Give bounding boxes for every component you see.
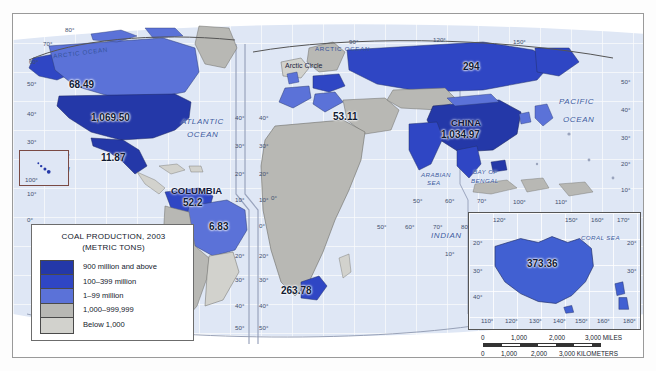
mexico-value: 11.87 xyxy=(101,153,125,163)
bay-of-bengal-label-line2: BENGAL xyxy=(471,178,499,184)
legend-label-column: 900 million and above 100–399 million 1–… xyxy=(83,260,157,334)
scale-km-3000: 3,000 KILOMETERS xyxy=(559,350,618,357)
indian-ocean-label-line1: INDIAN xyxy=(431,232,462,240)
indian-lon-110: 110° xyxy=(555,198,567,205)
brazil-value: 6.83 xyxy=(209,222,228,232)
gore2-tick-0: 0° xyxy=(259,222,265,229)
bay-of-bengal-label-line1: BAY OF xyxy=(473,169,498,175)
lon-tick-70: 70° xyxy=(477,197,486,204)
hawaii-inset-lon-label: 100° xyxy=(25,176,38,183)
africa2-tick-30: 30° xyxy=(259,276,268,283)
legend-label-1-99: 1–99 million xyxy=(83,288,157,302)
pacific-ocean-east-label-line2: OCEAN xyxy=(563,116,594,124)
legend-swatch-900-plus xyxy=(41,261,73,275)
right-lat-20: 20° xyxy=(621,160,630,167)
indian-lon-70: 70° xyxy=(433,223,442,230)
united-states-value: 1,069.50 xyxy=(91,113,130,123)
right-lat-30: 30° xyxy=(621,134,630,141)
scale-km-2000: 2,000 xyxy=(531,350,547,357)
aus-lat-right-20: 20° xyxy=(627,239,636,246)
arabian-sea-label-line2: SEA xyxy=(427,180,441,186)
arabian-sea-label-line1: ARABIAN xyxy=(421,172,451,178)
pacific-ocean-east-label-line1: PACIFIC xyxy=(559,98,594,106)
map-frame: 80° 70° 60° 50° 40° 30° 20° 10° 0° 40° 3… xyxy=(12,13,644,358)
aus-lon-bot-130: 130° xyxy=(529,317,542,324)
europe-value: 53.11 xyxy=(333,112,357,122)
atlantic-tick-30: 30° xyxy=(235,142,244,149)
aus-lon-top-120: 120° xyxy=(493,216,506,223)
aus-lat-right-30: 30° xyxy=(627,267,636,274)
arctic-ocean-east-label: ARCTIC OCEAN xyxy=(315,46,370,52)
lon-tick-60: 60° xyxy=(445,197,454,204)
australia-landmass xyxy=(469,213,640,329)
indian-lon-50: 50° xyxy=(377,223,386,230)
lat-tick-70: 70° xyxy=(43,40,52,47)
scale-miles-2000: 2,000 xyxy=(549,334,565,341)
legend-swatch-column xyxy=(40,260,74,334)
lon-tick-0-africa: 0° xyxy=(271,194,277,201)
atlantic-tick-40: 40° xyxy=(235,114,244,121)
aus-lon-bot-180: 180° xyxy=(623,317,636,324)
aus-lon-bot-160: 160° xyxy=(597,317,610,324)
africa2-tick-20: 20° xyxy=(259,252,268,259)
scale-km-1000: 1,000 xyxy=(501,350,517,357)
coral-sea-label: CORAL SEA xyxy=(581,235,620,241)
legend-swatch-1-99 xyxy=(41,289,73,303)
scale-miles-1000: 1,000 xyxy=(511,334,527,341)
legend-swatch-1k-999k xyxy=(41,304,73,318)
australia-value: 373.36 xyxy=(527,259,558,269)
gore2-tick-20: 20° xyxy=(259,170,268,177)
aus-lon-bot-110: 110° xyxy=(481,317,493,324)
atlantic-tick-20: 20° xyxy=(235,170,244,177)
china-country-label: CHINA xyxy=(451,118,481,128)
canada-value: 68.49 xyxy=(69,80,94,90)
scale-miles-3000: 3,000 MILES xyxy=(585,334,622,341)
australia-inset: 373.36 CORAL SEA 120° 150° 160° 170° 20°… xyxy=(468,212,641,330)
lat-tick-0: 0° xyxy=(27,216,33,223)
lat-tick-40: 40° xyxy=(27,110,36,117)
map-page: 80° 70° 60° 50° 40° 30° 20° 10° 0° 40° 3… xyxy=(0,0,656,371)
africa-tick-50: 50° xyxy=(235,324,244,331)
south-africa-value: 263.78 xyxy=(281,286,312,296)
indian-lat-10: 10° xyxy=(445,250,454,257)
aus-lon-bot-120: 120° xyxy=(505,317,518,324)
aus-lon-top-160: 160° xyxy=(591,216,604,223)
legend-panel: COAL PRODUCTION, 2003 (METRIC TONS) 900 … xyxy=(31,224,194,341)
aus-lat-left-20: 20° xyxy=(473,239,482,246)
scale-km-0: 0 xyxy=(481,350,485,357)
russia-value: 294 xyxy=(463,62,480,72)
indian-lon-60: 60° xyxy=(405,223,414,230)
top-lon-90: 90° xyxy=(349,38,358,45)
lon-tick-50: 50° xyxy=(413,197,422,204)
indian-lon-100: 100° xyxy=(513,198,526,205)
legend-swatch-100-399 xyxy=(41,275,73,289)
atlantic-ocean-label-line2: OCEAN xyxy=(187,131,218,139)
aus-lat-left-30: 30° xyxy=(473,267,482,274)
legend-rows: 900 million and above 100–399 million 1–… xyxy=(40,260,187,334)
africa-tick-40: 40° xyxy=(235,302,244,309)
africa-tick-20: 20° xyxy=(235,252,244,259)
aus-lat-left-40: 40° xyxy=(473,293,482,300)
africa-tick-30: 30° xyxy=(235,276,244,283)
scale-km-numbers: 0 1,000 2,000 3,000 KILOMETERS xyxy=(479,350,644,358)
colombia-value: 52.2 xyxy=(183,198,202,208)
arctic-circle-label: Arctic Circle xyxy=(285,62,322,69)
lat-tick-50: 50° xyxy=(27,80,36,87)
aus-lon-bot-150: 150° xyxy=(575,317,588,324)
colombia-country-label: COLUMBIA xyxy=(171,186,222,196)
lat-tick-80: 80° xyxy=(65,26,74,33)
atlantic-tick-10: 10° xyxy=(235,196,244,203)
right-lat-40: 40° xyxy=(621,106,630,113)
gore2-tick-10: 10° xyxy=(259,196,268,203)
lat-tick-60: 60° xyxy=(29,58,38,65)
lat-tick-10: 10° xyxy=(27,190,36,197)
legend-label-100-399: 100–399 million xyxy=(83,274,157,288)
china-value: 1,034.97 xyxy=(441,130,480,140)
africa2-tick-50: 50° xyxy=(259,324,268,331)
right-lat-50: 50° xyxy=(621,78,630,85)
scale-bar-graphic xyxy=(483,343,601,347)
aus-lon-top-150: 150° xyxy=(565,216,578,223)
scale-miles-numbers: 0 1,000 2,000 3,000 MILES xyxy=(479,334,644,342)
legend-title-line1: COAL PRODUCTION, 2003 xyxy=(40,232,187,243)
aus-lon-top-170: 170° xyxy=(617,216,630,223)
